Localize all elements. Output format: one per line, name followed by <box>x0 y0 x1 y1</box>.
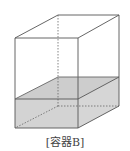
diagram-caption: [容器B] <box>0 133 130 149</box>
container-b-diagram <box>0 0 130 151</box>
water-front-face <box>15 99 78 128</box>
